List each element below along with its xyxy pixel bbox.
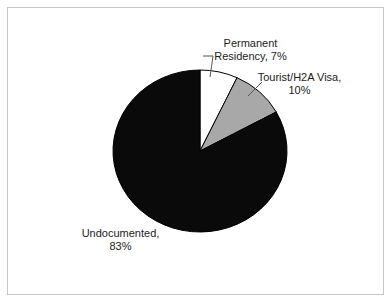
pie-label-undocumented-line1: Undocumented, <box>68 227 173 240</box>
pie-label-tourist-h2a-visa: Tourist/H2A Visa, 10% <box>247 71 352 97</box>
pie-label-undocumented: Undocumented, 83% <box>68 227 173 253</box>
pie-label-permanent-line1: Permanent <box>193 37 308 50</box>
pie-label-tourist-line1: Tourist/H2A Visa, <box>247 71 352 84</box>
pie-label-tourist-line2: 10% <box>247 84 352 97</box>
chart-canvas: Permanent Residency, 7% Tourist/H2A Visa… <box>0 0 391 306</box>
pie-label-permanent-line2: Residency, 7% <box>193 50 308 63</box>
pie-label-undocumented-line2: 83% <box>68 240 173 253</box>
pie-label-permanent-residency: Permanent Residency, 7% <box>193 37 308 63</box>
